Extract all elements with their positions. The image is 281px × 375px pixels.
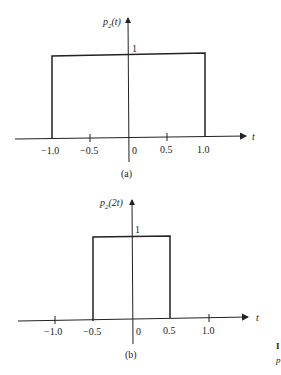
t-axis-a <box>15 136 246 139</box>
edge-text-2: p <box>276 355 281 365</box>
xtick-a-1: −0.5 <box>80 145 98 156</box>
xtick-a-3: 0.5 <box>160 144 173 155</box>
y-axis-b <box>132 200 133 344</box>
xtick-b-0: −1.0 <box>44 326 62 337</box>
xtick-b-3: 0.5 <box>163 325 176 336</box>
panel-b: p2(2t) 1 t −1.0 −0.5 0 0.5 1.0 (b) <box>18 197 259 361</box>
caption-a: (a) <box>121 168 132 180</box>
y-axis-a <box>128 18 129 162</box>
xtick-a-0: −1.0 <box>41 145 59 156</box>
ytick-b-1: 1 <box>135 224 140 235</box>
pulse-b <box>93 236 170 321</box>
panel-a: p2(t) 1 t −1.0 −0.5 0 0.5 1.0 (a) <box>15 16 255 180</box>
ylabel-b: p2(2t) <box>99 197 124 211</box>
ytick-a-1: 1 <box>132 43 137 54</box>
caption-b: (b) <box>125 349 137 361</box>
xtick-b-1: −0.5 <box>83 326 101 337</box>
xlabel-a: t <box>252 131 255 142</box>
xlabel-b: t <box>256 312 259 323</box>
xtick-a-4: 1.0 <box>197 144 210 155</box>
edge-text-1: I <box>276 341 280 351</box>
xtick-b-2: 0 <box>136 326 141 337</box>
figure-canvas: p2(t) 1 t −1.0 −0.5 0 0.5 1.0 (a) p2(2t)… <box>0 0 281 375</box>
xtick-b-4: 1.0 <box>202 325 215 336</box>
ylabel-a: p2(t) <box>102 16 122 30</box>
xtick-a-2: 0 <box>132 145 137 156</box>
